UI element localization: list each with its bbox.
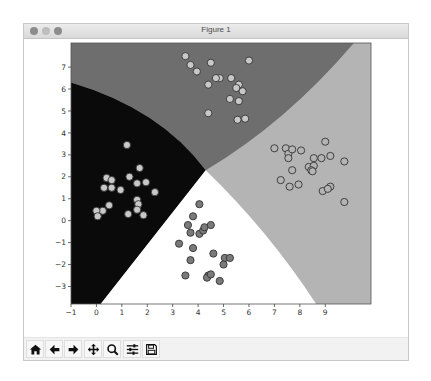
- x-tick-label: 1: [119, 308, 124, 317]
- x-tick-label: 4: [196, 308, 201, 317]
- title-bar[interactable]: Figure 1: [24, 24, 408, 39]
- data-point: [233, 84, 240, 91]
- data-point: [126, 173, 133, 180]
- sliders-icon: [126, 343, 139, 356]
- data-point: [285, 155, 292, 162]
- configure-subplots-button[interactable]: [123, 340, 141, 358]
- data-point: [182, 53, 189, 60]
- data-point: [212, 74, 219, 81]
- x-tick-label: 7: [272, 308, 277, 317]
- x-tick-label: 6: [247, 308, 252, 317]
- data-point: [187, 257, 194, 264]
- data-point: [125, 210, 132, 217]
- x-tick-label: 2: [145, 308, 150, 317]
- data-point: [341, 198, 348, 205]
- y-tick-label: 1: [61, 194, 66, 203]
- data-point: [289, 146, 296, 153]
- move-icon: [87, 343, 100, 356]
- magnifier-icon: [106, 343, 119, 356]
- x-tick-label: −1: [65, 308, 76, 317]
- data-point: [134, 180, 141, 187]
- back-button[interactable]: [45, 340, 63, 358]
- data-point: [151, 189, 158, 196]
- y-tick-label: 3: [61, 150, 66, 159]
- data-point: [271, 145, 278, 152]
- data-point: [207, 221, 214, 228]
- y-tick-label: 6: [61, 85, 66, 94]
- y-tick-label: −2: [55, 260, 66, 269]
- x-tick-label: 0: [94, 308, 99, 317]
- data-point: [108, 176, 115, 183]
- data-point: [324, 185, 331, 192]
- data-point: [134, 206, 141, 213]
- y-tick-label: 5: [61, 107, 66, 116]
- data-point: [94, 213, 101, 220]
- data-point: [341, 158, 348, 165]
- x-tick-label: 8: [297, 308, 302, 317]
- data-point: [123, 141, 130, 148]
- data-point: [142, 179, 149, 186]
- data-point: [297, 147, 304, 154]
- data-point: [205, 110, 212, 117]
- data-point: [175, 240, 182, 247]
- data-point: [106, 202, 113, 209]
- data-point: [226, 254, 233, 261]
- forward-button[interactable]: [64, 340, 82, 358]
- y-tick-label: 4: [61, 129, 66, 138]
- pan-button[interactable]: [84, 340, 102, 358]
- zoom-to-rect-button[interactable]: [103, 340, 121, 358]
- figure-window: Figure 1 −10123456789−3−2−101234567: [23, 23, 409, 361]
- data-point: [108, 184, 115, 191]
- data-point: [196, 201, 203, 208]
- data-point: [189, 213, 196, 220]
- y-tick-label: −1: [55, 238, 66, 247]
- data-point: [205, 81, 212, 88]
- arrow-left-icon: [48, 343, 61, 356]
- data-point: [226, 95, 233, 102]
- data-point: [327, 152, 334, 159]
- data-point: [189, 244, 196, 251]
- y-tick-label: 7: [61, 63, 66, 72]
- data-point: [220, 261, 227, 268]
- data-point: [289, 167, 296, 174]
- window-title: Figure 1: [24, 25, 408, 34]
- navigation-toolbar: [24, 337, 408, 360]
- data-point: [242, 115, 249, 122]
- data-point: [207, 271, 214, 278]
- x-tick-label: 5: [221, 308, 226, 317]
- data-point: [187, 229, 194, 236]
- data-point: [295, 181, 302, 188]
- data-point: [193, 68, 200, 75]
- data-point: [207, 59, 214, 66]
- y-tick-label: 2: [61, 172, 66, 181]
- figure-canvas[interactable]: −10123456789−3−2−101234567: [24, 39, 408, 335]
- data-point: [309, 168, 316, 175]
- data-point: [310, 155, 317, 162]
- home-button[interactable]: [26, 340, 44, 358]
- data-point: [216, 277, 223, 284]
- data-point: [286, 183, 293, 190]
- data-point: [100, 184, 107, 191]
- data-point: [140, 212, 147, 219]
- scatter-plot[interactable]: −10123456789−3−2−101234567: [24, 39, 410, 335]
- data-point: [245, 57, 252, 64]
- home-icon: [29, 343, 42, 356]
- data-point: [228, 74, 235, 81]
- data-point: [235, 98, 242, 105]
- data-point: [184, 221, 191, 228]
- data-point: [187, 61, 194, 68]
- data-point: [322, 138, 329, 145]
- x-tick-label: 3: [170, 308, 175, 317]
- floppy-disk-icon: [145, 343, 158, 356]
- data-point: [277, 176, 284, 183]
- data-point: [318, 155, 325, 162]
- data-point: [234, 116, 241, 123]
- data-point: [117, 186, 124, 193]
- y-tick-label: 0: [61, 216, 66, 225]
- data-point: [210, 250, 217, 257]
- x-tick-label: 9: [323, 308, 328, 317]
- arrow-right-icon: [67, 343, 80, 356]
- data-point: [182, 272, 189, 279]
- data-point: [136, 164, 143, 171]
- save-figure-button[interactable]: [142, 340, 160, 358]
